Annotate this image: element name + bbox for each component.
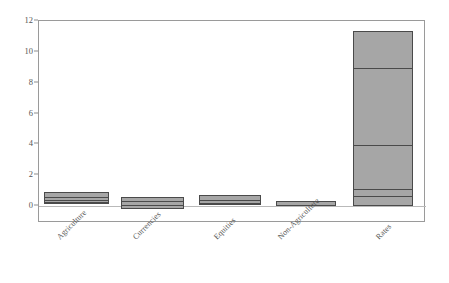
x-label-currencies: Currencies [131,210,163,242]
x-label-equities: Equities [212,216,237,241]
x-label-non-agriculture: Non-Agriculture [276,196,321,241]
chart-root: 12 10 8 6 4 2 0 [0,0,449,283]
x-label-agriculture: Agriculture [55,208,88,241]
x-label-rates: Rates [374,222,393,241]
x-axis-labels: Agriculture Currencies Equities Non-Agri… [0,0,449,283]
